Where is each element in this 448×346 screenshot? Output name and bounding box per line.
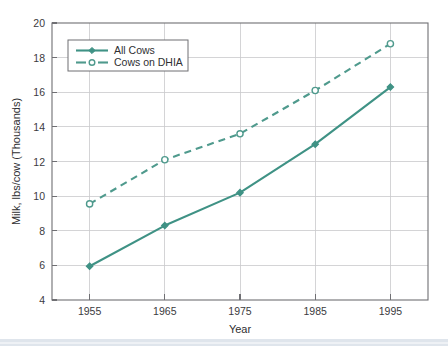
y-tick-label-10: 10 — [33, 190, 45, 202]
line-chart: 4 6 8 10 12 14 16 18 20 1955 1965 1975 1… — [0, 0, 448, 346]
y-tick-label-16: 16 — [33, 86, 45, 98]
y-tick-label-18: 18 — [33, 52, 45, 64]
legend-label-all-cows: All Cows — [114, 44, 155, 56]
y-tick-label-8: 8 — [39, 225, 45, 237]
y-tick-label-6: 6 — [39, 259, 45, 271]
legend-marker-open-circle — [89, 60, 95, 66]
y-tick-label-12: 12 — [33, 156, 45, 168]
x-tick-label-1975: 1975 — [228, 305, 252, 317]
x-tick-label-1985: 1985 — [304, 305, 328, 317]
data-point — [162, 157, 168, 163]
y-tick-label-4: 4 — [39, 294, 45, 306]
x-tick-label-1995: 1995 — [379, 305, 403, 317]
chart-figure: 4 6 8 10 12 14 16 18 20 1955 1965 1975 1… — [0, 0, 448, 346]
x-tick-label-1955: 1955 — [78, 305, 102, 317]
data-point — [237, 131, 243, 137]
legend-label-cows-on-dhia: Cows on DHIA — [114, 56, 183, 68]
data-point — [87, 201, 93, 207]
data-point — [387, 41, 393, 47]
y-axis-title: Milk, lbs/cow (Thousands) — [10, 98, 22, 225]
data-point — [312, 87, 318, 93]
bottom-decorative-band — [0, 339, 448, 346]
x-axis-title: Year — [229, 323, 252, 335]
y-tick-label-14: 14 — [33, 121, 45, 133]
chart-legend: All Cows Cows on DHIA — [68, 40, 188, 71]
y-tick-label-20: 20 — [33, 17, 45, 29]
x-tick-label-1965: 1965 — [153, 305, 177, 317]
bottom-band-highlight — [0, 342, 448, 344]
